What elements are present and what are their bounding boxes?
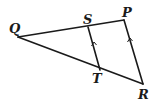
segment-pr — [124, 20, 143, 84]
triangle-diagram: Q S P T R — [0, 0, 155, 105]
point-label-q: Q — [9, 21, 21, 36]
point-label-p: P — [121, 5, 133, 20]
point-label-s: S — [83, 12, 92, 27]
point-label-r: R — [137, 87, 149, 102]
segment-qp — [18, 20, 124, 37]
point-label-t: T — [92, 71, 103, 86]
segment-qr — [18, 37, 143, 84]
